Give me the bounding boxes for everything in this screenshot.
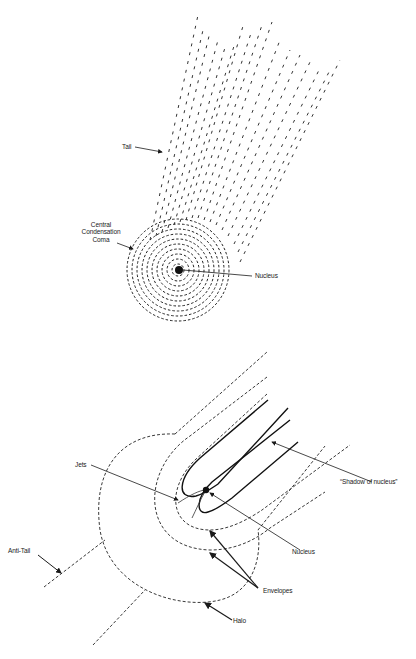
jets-leader: [91, 465, 178, 500]
shell-upper: [182, 400, 288, 496]
tail-leader: [135, 147, 162, 152]
coma-label-line2: Condensation: [76, 228, 126, 235]
anti-tail-lower: [93, 590, 145, 645]
shadow-of-nucleus-label: “Shadow of nucleus”: [340, 478, 397, 485]
comet-diagram: Tail Central Condensation Coma Nucleus J…: [0, 0, 416, 659]
jet-curve-down: [192, 490, 206, 518]
anti-tail-label: Anti-Tail: [8, 547, 30, 554]
diagram-canvas: [0, 0, 416, 659]
envelope-outer: [155, 377, 325, 550]
shadow-leader: [272, 442, 372, 482]
tail-label: Tail: [122, 143, 131, 150]
halo-leader: [205, 603, 232, 620]
bottom-nucleus-label: Nucleus: [292, 548, 315, 555]
bottom-nucleus-dot: [203, 487, 209, 493]
coma-label-line1: Central: [76, 221, 126, 228]
bottom-panel: [38, 352, 372, 645]
anti-tail-leader: [38, 555, 61, 573]
top-nucleus-label: Nucleus: [255, 272, 278, 279]
tail-streaks: [150, 15, 340, 262]
envelopes-leader-b: [210, 553, 258, 588]
envelope-inner: [176, 394, 350, 530]
coma-leader: [117, 243, 133, 249]
envelopes-leader-a: [210, 531, 258, 588]
halo-label: Halo: [233, 617, 246, 624]
halo-outline: [99, 434, 259, 603]
top-nucleus-dot: [175, 266, 183, 274]
streamer-upper: [175, 352, 267, 434]
coma-label: Central Condensation Coma: [76, 221, 126, 243]
top-panel: [117, 15, 340, 321]
nucleus-leader: [210, 493, 300, 550]
anti-tail-upper: [44, 540, 105, 587]
envelopes-label: Envelopes: [263, 587, 292, 594]
jets-label: Jets: [75, 461, 87, 468]
coma-label-line3: Coma: [76, 236, 126, 243]
